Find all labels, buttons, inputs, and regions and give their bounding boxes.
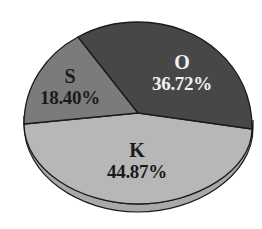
slice-k-percent: 44.87% bbox=[98, 162, 176, 181]
slice-o-name: O bbox=[144, 52, 220, 72]
slice-label-o: O 36.72% bbox=[144, 52, 220, 93]
pie-chart bbox=[0, 0, 262, 229]
slice-label-k: K 44.87% bbox=[98, 140, 176, 181]
slice-k-name: K bbox=[98, 140, 176, 160]
slice-s-name: S bbox=[34, 66, 106, 86]
slice-o-percent: 36.72% bbox=[144, 74, 220, 93]
slice-label-s: S 18.40% bbox=[34, 66, 106, 107]
slice-s-percent: 18.40% bbox=[34, 88, 106, 107]
